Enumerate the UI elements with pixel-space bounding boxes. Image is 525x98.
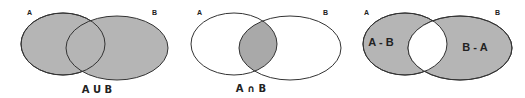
set-a-label: A xyxy=(27,9,32,16)
set-b-label: B xyxy=(152,9,157,16)
set-a-label: A xyxy=(364,9,369,16)
union-label: A U B xyxy=(82,84,112,95)
intersection-diagram: A B A ∩ B xyxy=(191,9,341,94)
difference-diagram: A B A - B B - A xyxy=(363,9,512,80)
set-a-label: A xyxy=(197,9,202,16)
set-b-label: B xyxy=(495,9,500,16)
a-minus-b-label: A - B xyxy=(368,36,393,48)
b-minus-a-label: B - A xyxy=(462,41,487,53)
venn-diagrams-figure: A B A U B A B A ∩ B A B A - B B - A xyxy=(0,0,525,98)
union-diagram: A B A U B xyxy=(21,9,168,95)
set-b-ellipse xyxy=(66,16,168,80)
intersection-label: A ∩ B xyxy=(236,83,266,94)
set-b-label: B xyxy=(323,9,328,16)
